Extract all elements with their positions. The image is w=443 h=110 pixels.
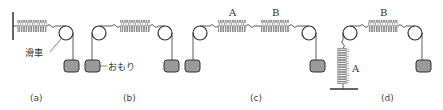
weight-left (185, 60, 200, 72)
panel-a: 滑車 (a) (13, 12, 79, 103)
spring-b (261, 20, 289, 32)
caption-d: (d) (381, 93, 394, 103)
weight-right (164, 60, 179, 72)
panel-b: おもり (b) (85, 20, 179, 103)
weight-right (416, 60, 431, 72)
weight-left (85, 60, 100, 72)
spring-b-label: B (272, 7, 279, 18)
spring-a-label: A (228, 7, 237, 18)
spring-pulley-diagram: 滑車 (a) おもり (b) A B (c) (0, 0, 443, 110)
pulley-leader-line (50, 39, 61, 52)
pulley-label: 滑車 (25, 47, 43, 58)
spring-b (368, 20, 398, 32)
weight-label: おもり (108, 62, 135, 72)
pulley-left (92, 26, 106, 40)
caption-b: (b) (123, 93, 136, 103)
spring-a (218, 20, 246, 32)
spring (120, 20, 150, 32)
pulley-left (193, 26, 207, 40)
spring-b-label: B (380, 7, 387, 18)
spring-a-label: A (351, 63, 360, 74)
pulley-right (158, 26, 172, 40)
spring-a-vertical (337, 48, 349, 84)
pulley-right (408, 26, 422, 40)
caption-a: (a) (30, 93, 43, 103)
spring (17, 20, 47, 32)
caption-c: (c) (250, 93, 262, 103)
panel-d: A B (d) (330, 7, 431, 103)
weight (64, 60, 79, 72)
pulley-left (343, 26, 357, 40)
pulley (59, 26, 73, 40)
panel-c: A B (c) (185, 7, 325, 103)
weight-right (310, 60, 325, 72)
pulley-right (302, 26, 316, 40)
